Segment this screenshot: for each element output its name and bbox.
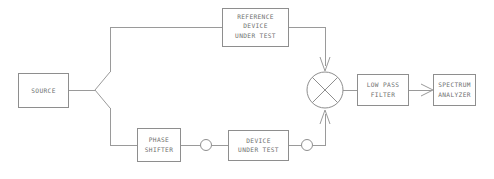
block-phase-shifter-label-line1: PHASE <box>149 136 169 143</box>
block-low-pass-filter-label-line1: LOW PASS <box>367 81 400 88</box>
block-low-pass-filter-label-line2: FILTER <box>371 91 395 98</box>
wire-splitter-upper-diagonal <box>95 72 110 90</box>
block-spectrum-analyzer-label-line2: ANALYZER <box>438 91 471 98</box>
block-reference-dut-label-line2: DEVICE <box>243 22 267 29</box>
block-dut-label-line2: UNDER TEST <box>238 146 279 153</box>
diagram-canvas: SOURCE REFERENCE DEVICE UNDER TEST PHASE… <box>0 0 494 179</box>
block-dut-label-line1: DEVICE <box>246 137 270 144</box>
block-source-label-line1: SOURCE <box>31 87 55 94</box>
connector-circle-1 <box>201 140 212 151</box>
block-phase-shifter-label-line2: SHIFTER <box>145 146 174 153</box>
block-spectrum-analyzer-label-line1: SPECTRUM <box>438 81 471 88</box>
wire-splitter-lower-diagonal <box>95 90 110 108</box>
block-reference-dut-label-line1: REFERENCE <box>237 13 274 20</box>
wire-bottom-branch-to-phase-shifter <box>110 108 137 145</box>
wire-reference-dut-to-mixer <box>288 27 325 66</box>
block-diagram-svg: SOURCE REFERENCE DEVICE UNDER TEST PHASE… <box>0 0 494 179</box>
block-reference-dut-label-line3: UNDER TEST <box>235 32 276 39</box>
wire-top-branch-to-reference-dut <box>110 27 222 72</box>
wire-connector-2-to-mixer <box>313 114 325 145</box>
connector-circle-2 <box>302 140 313 151</box>
